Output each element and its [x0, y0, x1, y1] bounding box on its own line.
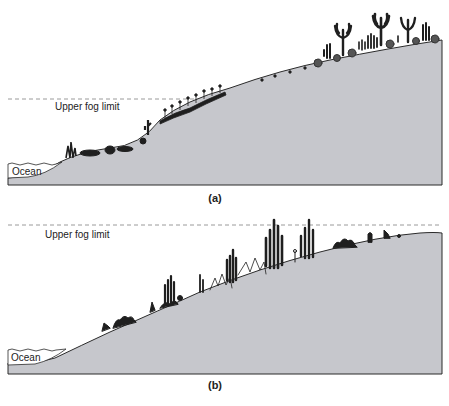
terrain-b — [8, 233, 442, 375]
panel-caption-b: (b) — [208, 379, 222, 391]
ocean-label-a: Ocean — [12, 166, 41, 177]
diagram-canvas: Upper fog limit Ocean — [0, 0, 449, 406]
fog-limit-label-b: Upper fog limit — [45, 229, 110, 240]
ocean-label-b: Ocean — [11, 352, 40, 363]
panel-caption-a: (a) — [208, 192, 222, 204]
fog-limit-label-a: Upper fog limit — [55, 101, 120, 112]
panel-a: Upper fog limit Ocean — [8, 14, 442, 204]
terrain-a — [8, 40, 442, 185]
panel-b: Upper fog limit Ocean (b) — [8, 220, 442, 391]
